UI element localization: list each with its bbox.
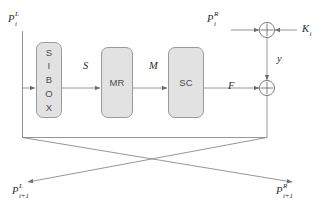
label-output-left: PLi+1 (12, 186, 18, 197)
label-input-right-base: P (207, 13, 213, 24)
block-sc[interactable]: SC (168, 47, 204, 118)
label-signal-m: M (149, 61, 158, 72)
xor-top[interactable] (258, 21, 276, 39)
sibox-letter-4: X (46, 101, 53, 115)
block-mr-label: MR (109, 76, 124, 90)
sibox-letter-0: S (46, 46, 53, 60)
sibox-letter-3: O (45, 87, 53, 101)
block-mr[interactable]: MR (101, 47, 133, 118)
block-sc-label: SC (179, 76, 193, 90)
label-input-left-base: P (8, 13, 14, 24)
label-input-right: PRi (207, 14, 213, 25)
label-key-base: K (302, 23, 309, 34)
sibox-letter-1: I (48, 59, 51, 73)
label-input-left: PLi (8, 14, 14, 25)
label-key: Ki (302, 24, 309, 35)
feistel-round-diagram: S I B O X MR SC PLi PRi Ki S M F y PLi+1… (0, 0, 324, 205)
label-signal-s: S (83, 61, 88, 72)
label-output-right-base: P (276, 185, 282, 196)
label-signal-f: F (228, 81, 234, 92)
label-signal-y: y (277, 54, 282, 65)
block-sibox[interactable]: S I B O X (36, 42, 62, 118)
label-output-right: PRi+1 (276, 186, 282, 197)
label-output-left-base: P (12, 185, 18, 196)
sibox-letter-2: B (46, 73, 53, 87)
xor-bottom[interactable] (258, 79, 276, 97)
